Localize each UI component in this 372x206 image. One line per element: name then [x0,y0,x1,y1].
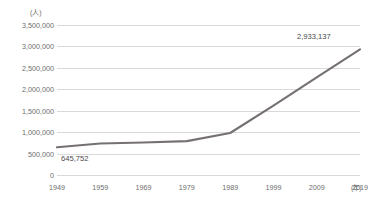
x-axis-tick-label: 2009 [309,183,325,192]
y-axis-tick-label: 500,000 [2,149,54,158]
last-point-value-label: 2,933,137 [297,32,331,41]
y-axis-labels: 3,500,0003,000,0002,500,0002,000,0001,50… [0,0,54,206]
y-axis-tick-label: 3,500,000 [2,21,54,30]
plot-area [57,25,360,175]
series-line-population [57,25,360,175]
y-axis-tick-label: 2,000,000 [2,85,54,94]
x-axis-tick-label: 1979 [179,183,195,192]
line-chart: (人) 3,500,0003,000,0002,500,0002,000,000… [0,0,372,206]
x-axis-tick-label: 1949 [49,183,65,192]
y-axis-tick-label: 2,500,000 [2,63,54,72]
x-axis-tick-label: 1999 [265,183,281,192]
x-axis-tick-label: 1989 [222,183,238,192]
gridline [57,175,360,176]
y-axis-tick-label: 1,000,000 [2,128,54,137]
x-axis-tick-label: 1959 [92,183,108,192]
x-axis-tick-label: 1969 [136,183,152,192]
first-point-value-label: 645,752 [61,154,88,163]
y-axis-tick-label: 1,500,000 [2,106,54,115]
x-axis-tick-label: 2019 [352,183,368,192]
y-axis-tick-label: 0 [2,171,54,180]
x-axis-labels: (年) 19491959196919791989199920092019 [57,183,372,197]
y-axis-tick-label: 3,000,000 [2,42,54,51]
